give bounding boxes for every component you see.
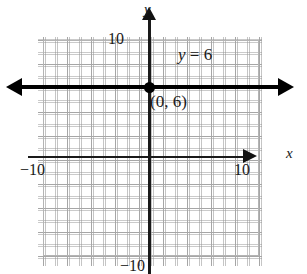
y-axis-label: y — [144, 2, 151, 17]
x-axis-line — [28, 156, 250, 158]
equation-rest: = 6 — [186, 45, 213, 64]
grid-border — [43, 40, 259, 256]
x-axis-tick-label-negative-10: −10 — [20, 162, 45, 178]
point-coordinate-label: (0, 6) — [150, 93, 187, 110]
equation-label: y = 6 — [178, 46, 212, 63]
equation-variable: y — [178, 45, 186, 64]
y-axis-tick-label-negative-10: −10 — [120, 258, 145, 274]
plot-line-arrow-right-icon — [278, 78, 294, 96]
y-axis-tick-label-10: 10 — [108, 31, 124, 47]
plot-line-arrow-left-icon — [6, 78, 22, 96]
x-axis-label: x — [286, 146, 293, 161]
x-axis-tick-label-10: 10 — [234, 162, 250, 178]
coordinate-plane-figure: y x 10 −10 10 −10 y = 6 (0, 6) — [0, 0, 307, 274]
y-axis-line — [148, 13, 151, 274]
